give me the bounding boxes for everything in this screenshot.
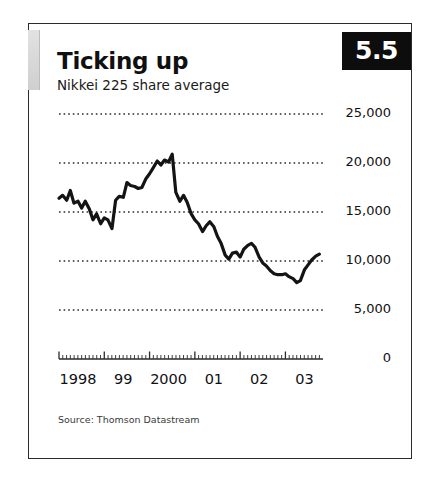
x-axis-tick-2003: 03: [295, 371, 313, 387]
y-axis-tick-5000: 5,000: [335, 301, 391, 316]
x-axis-tick-2001: 01: [205, 371, 223, 387]
y-axis-tick-15000: 15,000: [335, 203, 391, 218]
x-axis-tick-1999: 99: [114, 371, 132, 387]
left-edge-artifact: [28, 30, 40, 90]
y-axis-tick-20000: 20,000: [335, 154, 391, 169]
chart-card: 5.5 Ticking up Nikkei 225 share average …: [28, 23, 412, 459]
y-axis-tick-10000: 10,000: [335, 252, 391, 267]
chart-source-note: Source: Thomson Datastream: [58, 414, 200, 425]
plot-area: 05,00010,00015,00020,00025,000 199899200…: [29, 24, 413, 460]
y-axis-tick-0: 0: [335, 350, 391, 365]
x-axis-tick-1998: 1998: [60, 371, 97, 387]
y-axis-tick-25000: 25,000: [335, 105, 391, 120]
line-chart-svg: [29, 24, 413, 460]
x-axis-tick-2002: 02: [250, 371, 268, 387]
x-axis-tick-2000: 2000: [150, 371, 187, 387]
chart-figure: 5.5 Ticking up Nikkei 225 share average …: [0, 0, 437, 489]
